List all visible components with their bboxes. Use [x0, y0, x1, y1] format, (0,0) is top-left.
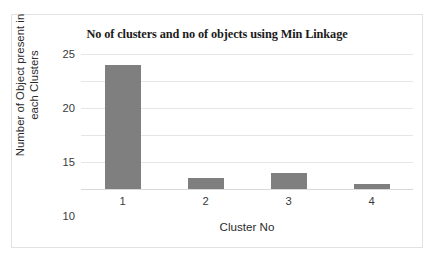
y-axis-tick-label: 25: [63, 48, 75, 60]
bar[interactable]: [105, 65, 141, 189]
bar-slot: [81, 54, 164, 189]
y-axis-title-line-1: Number of Object present in: [13, 14, 27, 156]
chart-title: No of clusters and no of objects using M…: [12, 27, 422, 42]
x-axis-tick-labels: 1234: [81, 195, 413, 213]
bar-slot: [164, 54, 247, 189]
bar-slot: [330, 54, 413, 189]
y-axis-title: Number of Object present in each Cluster…: [9, 5, 45, 165]
bar-slot: [247, 54, 330, 189]
bar-series: [81, 54, 413, 189]
y-axis-tick-label: 15: [63, 156, 75, 168]
x-axis-tick-label: 1: [119, 195, 125, 207]
plot-area: 0510152025: [81, 54, 413, 189]
x-axis-tick-label: 3: [285, 195, 291, 207]
y-axis-tick-label: 20: [63, 102, 75, 114]
bar[interactable]: [188, 178, 224, 189]
bar[interactable]: [271, 173, 307, 189]
chart-frame: No of clusters and no of objects using M…: [11, 14, 423, 248]
x-axis-tick-label: 2: [202, 195, 208, 207]
bar[interactable]: [354, 184, 390, 189]
x-axis-title: Cluster No: [81, 220, 413, 233]
y-axis-title-line-2: each Clusters: [27, 50, 41, 120]
x-axis-tick-label: 4: [368, 195, 374, 207]
gridline: 0: [81, 189, 413, 190]
y-axis-tick-label: 10: [63, 210, 75, 222]
